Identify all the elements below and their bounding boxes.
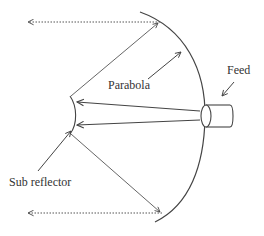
- sub-reflector-pointer-arrow: [38, 131, 71, 171]
- sub-reflector: [70, 96, 76, 134]
- ray-feed-to-sub-lower: [77, 120, 200, 125]
- feed-pointer-arrow: [222, 82, 234, 96]
- ray-feed-to-sub-upper: [77, 102, 200, 111]
- cassegrain-antenna-diagram: [0, 0, 264, 236]
- feed-horn: [201, 105, 233, 127]
- feed-label: Feed: [227, 64, 250, 76]
- parabola-pointer-arrow: [148, 52, 181, 79]
- sub-reflector-label: Sub reflector: [9, 176, 71, 188]
- ray-sub-to-parabola-lower: [71, 134, 160, 212]
- parabola-label: Parabola: [108, 79, 150, 91]
- parabola-reflector: [140, 12, 205, 222]
